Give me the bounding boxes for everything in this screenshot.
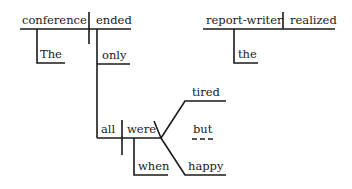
subject-word: conference xyxy=(22,13,87,27)
subordinate-verb: were xyxy=(127,122,156,136)
clause-2-verb: realized xyxy=(290,13,337,27)
subject-modifier-word: The xyxy=(40,47,62,61)
adverb-word: when xyxy=(138,159,170,173)
complement-lower-word: happy xyxy=(188,159,224,173)
clause-1: conference ended The only xyxy=(20,12,132,138)
clause-2-modifier-word: the xyxy=(238,47,257,61)
subordinate-subject: all xyxy=(101,122,116,136)
conjunction-word: but xyxy=(193,122,213,136)
verb-word: ended xyxy=(96,13,132,27)
clause-2-subject: report-writer xyxy=(206,13,283,27)
verb-modifier-word: only xyxy=(102,48,127,62)
subordinate-clause: all were when tired happy but xyxy=(97,85,226,175)
complement-upper-word: tired xyxy=(192,85,221,99)
clause-2: report-writer realized the xyxy=(203,12,337,63)
sentence-diagram: conference ended The only all were when … xyxy=(0,0,352,189)
